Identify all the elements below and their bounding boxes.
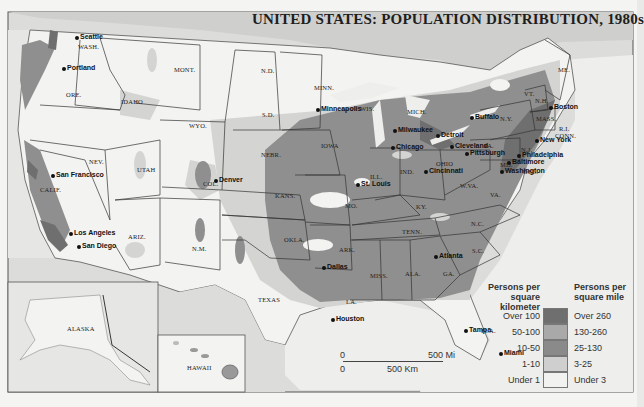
state-label: S.D. — [262, 111, 274, 118]
city-label: Milwaukee — [398, 126, 433, 133]
city-marker-icon — [75, 36, 79, 40]
state-label: N.M. — [192, 245, 207, 252]
legend-row: Over 100Over 260 — [470, 308, 635, 324]
legend-header-imperial-line2: square mile — [574, 292, 626, 302]
city-marker-icon — [450, 145, 454, 149]
scale-mi-zero: 0 — [340, 350, 345, 360]
scale-line — [343, 361, 443, 362]
city-marker-icon — [535, 139, 539, 143]
city-marker-icon — [316, 108, 320, 112]
state-label: N.C. — [471, 220, 484, 227]
legend-swatch — [543, 356, 568, 372]
legend-km-value: Under 1 — [470, 375, 540, 385]
city-label: Minneapolis — [321, 105, 361, 112]
legend-mi-value: 25-130 — [574, 343, 602, 353]
state-label: W.VA. — [460, 182, 478, 189]
city-marker-icon — [465, 152, 469, 156]
city-label: Washington — [505, 167, 545, 174]
state-label: ILL. — [370, 173, 383, 180]
legend-swatch — [543, 308, 568, 324]
state-label: LA. — [346, 298, 357, 305]
legend-header-metric-line1: Persons per — [470, 282, 540, 292]
state-label: GA. — [443, 270, 455, 277]
state-label: VT. — [524, 90, 534, 97]
city-label: San Diego — [82, 242, 116, 249]
city-marker-icon — [507, 161, 511, 165]
legend-row: 50-100130-260 — [470, 324, 635, 340]
legend-row: 10-5025-130 — [470, 340, 635, 356]
state-label: KANS. — [275, 192, 295, 199]
city-label: Seattle — [80, 33, 103, 40]
city-marker-icon — [393, 129, 397, 133]
city-label: Cleveland — [455, 142, 488, 149]
state-label: MINN. — [314, 84, 334, 91]
city-label: Houston — [336, 315, 364, 322]
city-label: New York — [540, 136, 571, 143]
state-label: ORE. — [66, 91, 81, 98]
state-label: TENN. — [402, 228, 422, 235]
state-label: WASH. — [78, 43, 99, 50]
state-label: MISS. — [370, 272, 388, 279]
city-marker-icon — [470, 116, 474, 120]
state-label: OHIO — [436, 160, 453, 167]
city-label: Portland — [67, 64, 95, 71]
state-label: MO. — [345, 202, 358, 209]
city-marker-icon — [424, 170, 428, 174]
legend-km-value: 50-100 — [470, 327, 540, 337]
city-label: Buffalo — [475, 113, 499, 120]
state-label: VA. — [490, 191, 501, 198]
state-label: MASS. — [536, 115, 556, 122]
city-marker-icon — [69, 232, 73, 236]
city-label: San Francisco — [56, 171, 104, 178]
legend-km-value: 10-50 — [470, 343, 540, 353]
legend-header-imperial-line1: Persons per — [574, 282, 626, 292]
state-label: ALASKA — [67, 325, 95, 332]
city-marker-icon — [436, 134, 440, 138]
city-marker-icon — [464, 329, 468, 333]
city-marker-icon — [62, 67, 66, 71]
state-label: IND. — [400, 168, 414, 175]
state-label: ARK. — [339, 246, 355, 253]
state-label: IOWA — [321, 142, 339, 149]
legend-row: 1-103-25 — [470, 356, 635, 372]
city-label: Dallas — [327, 263, 348, 270]
state-label: N.Y. — [500, 115, 513, 122]
state-label: MONT. — [174, 66, 195, 73]
state-label: HAWAII — [187, 364, 212, 371]
city-marker-icon — [356, 183, 360, 187]
city-label: Boston — [554, 103, 578, 110]
legend-row: Under 1Under 3 — [470, 372, 635, 388]
map-title: UNITED STATES: POPULATION DISTRIBUTION, … — [252, 11, 644, 28]
state-label: WYO. — [189, 122, 207, 129]
state-label: NEBR. — [261, 151, 281, 158]
city-label: Cincinnati — [429, 167, 463, 174]
city-marker-icon — [434, 255, 438, 259]
city-label: Baltimore — [512, 158, 544, 165]
scale-km-zero: 0 — [340, 364, 345, 374]
state-label: MICH. — [407, 108, 427, 115]
legend-swatch — [543, 324, 568, 340]
state-label: N.D. — [261, 67, 274, 74]
legend-swatch — [543, 372, 568, 388]
legend-mi-value: 130-260 — [574, 327, 607, 337]
legend-km-value: Over 100 — [470, 311, 540, 321]
city-label: Chicago — [396, 143, 424, 150]
state-label: WIS. — [360, 105, 374, 112]
state-label: TEXAS — [258, 296, 280, 303]
state-label: ALA. — [405, 270, 421, 277]
legend-swatch — [543, 340, 568, 356]
city-marker-icon — [331, 318, 335, 322]
state-label: S.C. — [472, 247, 484, 254]
city-marker-icon — [214, 179, 218, 183]
state-label: CALIF. — [40, 186, 61, 193]
state-label: NEV. — [89, 158, 104, 165]
city-marker-icon — [77, 245, 81, 249]
state-label: N.H. — [535, 97, 548, 104]
state-label: IDAHO — [121, 98, 143, 105]
city-label: Philadelphia — [522, 151, 563, 158]
scale-km-label: 500 Km — [387, 364, 418, 374]
legend-km-value: 1-10 — [470, 359, 540, 369]
city-label: Atlanta — [439, 252, 463, 259]
city-label: Denver — [219, 176, 243, 183]
state-label: KY. — [416, 203, 427, 210]
